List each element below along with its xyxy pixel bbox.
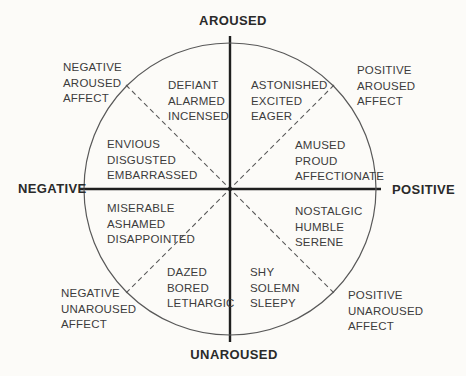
- outer-label-negative-unaroused-affect: NEGATIVE UNAROUSED AFFECT: [61, 286, 136, 333]
- octant-label-amused-proud-affectionate: AMUSED PROUD AFFECTIONATE: [295, 138, 384, 185]
- octant-label-envious-disgusted-embarrassed: ENVIOUS DISGUSTED EMBARRASSED: [107, 137, 197, 184]
- outer-label-negative-aroused-affect: NEGATIVE AROUSED AFFECT: [63, 60, 122, 107]
- octant-label-shy-solemn-sleepy: SHY SOLEMN SLEEPY: [250, 265, 300, 312]
- octant-label-astonished-excited-eager: ASTONISHED EXCITED EAGER: [251, 78, 328, 125]
- axis-label-unaroused: UNAROUSED: [190, 347, 277, 362]
- octant-label-nostalgic-humble-serene: NOSTALGIC HUMBLE SERENE: [295, 204, 362, 251]
- outer-label-positive-unaroused-affect: POSITIVE UNAROUSED AFFECT: [348, 288, 423, 335]
- outer-label-positive-aroused-affect: POSITIVE AROUSED AFFECT: [357, 63, 415, 110]
- axis-label-negative: NEGATIVE: [18, 181, 87, 196]
- axis-label-aroused: AROUSED: [199, 13, 267, 28]
- octant-label-dazed-bored-lethargic: DAZED BORED LETHARGIC: [167, 265, 235, 312]
- affect-circumplex-diagram: AROUSED UNAROUSED NEGATIVE POSITIVE NEGA…: [0, 0, 466, 376]
- octant-label-defiant-alarmed-incensed: DEFIANT ALARMED INCENSED: [168, 78, 229, 125]
- axis-label-positive: POSITIVE: [392, 182, 455, 197]
- octant-label-miserable-ashamed-disappointed: MISERABLE ASHAMED DISAPPOINTED: [107, 201, 195, 248]
